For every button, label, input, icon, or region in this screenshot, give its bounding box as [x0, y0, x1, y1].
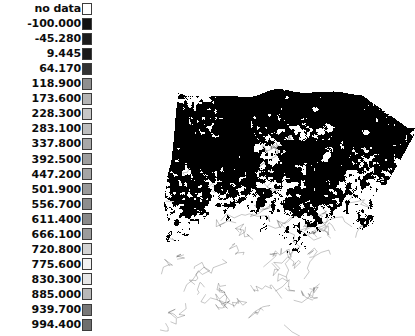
- legend-color-swatch: [82, 33, 92, 45]
- legend-row[interactable]: 611.400: [0, 213, 92, 226]
- legend-row-label: 885.000: [32, 288, 82, 301]
- legend-row-label: 775.600: [32, 258, 82, 271]
- legend-row-label: -100.000: [27, 17, 82, 30]
- legend-color-swatch: [82, 304, 92, 316]
- legend-color-swatch: [82, 168, 92, 180]
- legend-row[interactable]: 118.900: [0, 77, 92, 90]
- legend-color-swatch: [82, 18, 92, 30]
- legend-color-swatch: [82, 258, 92, 270]
- legend-row-label: 556.700: [32, 198, 82, 211]
- legend-color-swatch: [82, 243, 92, 255]
- legend-color-swatch: [82, 63, 92, 75]
- legend-row-label: 283.100: [32, 122, 82, 135]
- raster-choropleth-map[interactable]: [150, 70, 415, 336]
- legend-color-swatch: [82, 288, 92, 300]
- legend-row-label: -45.280: [35, 32, 82, 45]
- legend-color-swatch: [82, 3, 92, 15]
- legend-color-swatch: [82, 153, 92, 165]
- legend-row-label: 939.700: [32, 303, 82, 316]
- legend-color-swatch: [82, 93, 92, 105]
- legend-color-swatch: [82, 48, 92, 60]
- legend-row-label: 337.800: [32, 137, 82, 150]
- legend-row-label: 611.400: [32, 213, 82, 226]
- raster-value-legend: no data-100.000-45.2809.44564.170118.900…: [0, 0, 92, 336]
- legend-row-label: 994.400: [32, 318, 82, 331]
- legend-row-label: 720.800: [32, 243, 82, 256]
- legend-row[interactable]: 283.100: [0, 122, 92, 135]
- legend-row[interactable]: -45.280: [0, 32, 92, 45]
- legend-row[interactable]: 556.700: [0, 198, 92, 211]
- legend-color-swatch: [82, 228, 92, 240]
- legend-row[interactable]: 666.100: [0, 228, 92, 241]
- legend-row[interactable]: 447.200: [0, 168, 92, 181]
- legend-row[interactable]: 501.900: [0, 183, 92, 196]
- legend-row[interactable]: 173.600: [0, 92, 92, 105]
- legend-row-label: no data: [35, 2, 83, 15]
- legend-row[interactable]: -100.000: [0, 17, 92, 30]
- legend-color-swatch: [82, 108, 92, 120]
- legend-row-label: 392.500: [32, 153, 82, 166]
- legend-row[interactable]: 939.700: [0, 303, 92, 316]
- legend-color-swatch: [82, 183, 92, 195]
- legend-row[interactable]: 994.400: [0, 318, 92, 331]
- legend-row-label: 64.170: [39, 62, 82, 75]
- legend-row-label: 228.300: [32, 107, 82, 120]
- legend-row-label: 173.600: [32, 92, 82, 105]
- legend-color-swatch: [82, 123, 92, 135]
- legend-row[interactable]: 64.170: [0, 62, 92, 75]
- legend-row-label: 501.900: [32, 183, 82, 196]
- legend-row-label: 666.100: [32, 228, 82, 241]
- legend-row[interactable]: 885.000: [0, 288, 92, 301]
- legend-row[interactable]: 720.800: [0, 243, 92, 256]
- legend-row-label: 118.900: [32, 77, 82, 90]
- legend-row-label: 447.200: [32, 168, 82, 181]
- legend-row-label: 830.300: [32, 273, 82, 286]
- legend-color-swatch: [82, 273, 92, 285]
- legend-row-label: 9.445: [47, 47, 82, 60]
- legend-row[interactable]: 228.300: [0, 107, 92, 120]
- legend-row[interactable]: 775.600: [0, 258, 92, 271]
- legend-color-swatch: [82, 78, 92, 90]
- legend-row[interactable]: 337.800: [0, 137, 92, 150]
- legend-color-swatch: [82, 138, 92, 150]
- legend-row[interactable]: 830.300: [0, 273, 92, 286]
- legend-color-swatch: [82, 319, 92, 331]
- legend-row[interactable]: no data: [0, 2, 92, 15]
- legend-color-swatch: [82, 213, 92, 225]
- legend-row[interactable]: 9.445: [0, 47, 92, 60]
- legend-row[interactable]: 392.500: [0, 153, 92, 166]
- map-panel: [150, 70, 415, 336]
- legend-color-swatch: [82, 198, 92, 210]
